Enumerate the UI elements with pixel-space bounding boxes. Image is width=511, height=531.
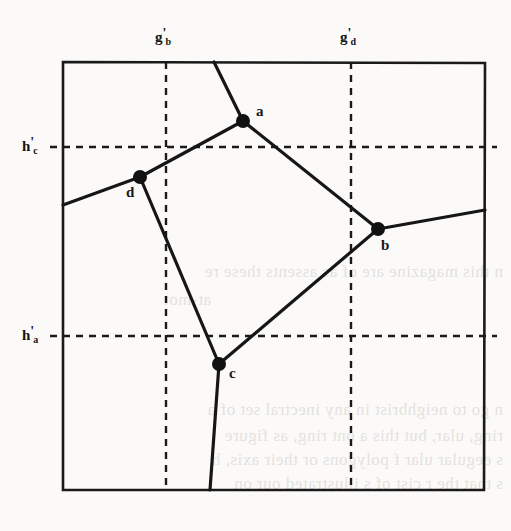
grid-label-h-a-sub: a [33, 334, 38, 345]
grid-label-g-b-sub: b [165, 36, 171, 47]
edge-d-c [140, 177, 219, 364]
scanned-page: n this magazine are of as assents these … [0, 0, 511, 531]
vertex-a[interactable] [236, 114, 250, 128]
diagram-canvas [0, 0, 511, 531]
edge-a-top [214, 62, 243, 121]
grid-label-h-c-prime: h'c [22, 139, 39, 154]
grid-lines [50, 62, 497, 490]
edge-c-bottom [210, 364, 219, 490]
grid-label-g-d-prime: g'd [340, 30, 357, 45]
subdivision-edges [63, 62, 485, 490]
grid-label-g-b-base: g [155, 29, 163, 45]
edge-b-c [219, 229, 378, 364]
vertex-label-c: c [229, 366, 236, 381]
edge-a-b [243, 121, 378, 229]
vertex-d[interactable] [133, 170, 147, 184]
vertex-label-b: b [381, 238, 389, 253]
edge-a-d [140, 121, 243, 177]
vertex-label-d: d [126, 185, 134, 200]
edge-b-right [378, 210, 485, 229]
vertices [133, 114, 385, 371]
grid-label-g-d-base: g [340, 29, 348, 45]
vertex-c[interactable] [212, 357, 226, 371]
grid-label-g-d-sub: d [350, 36, 356, 47]
bounding-box [63, 62, 485, 490]
vertex-b[interactable] [371, 222, 385, 236]
grid-label-h-a-prime: h'a [22, 328, 39, 343]
grid-label-g-b-prime: g'b [155, 30, 172, 45]
vertex-label-a: a [256, 104, 264, 119]
grid-label-h-c-sub: c [33, 145, 37, 156]
